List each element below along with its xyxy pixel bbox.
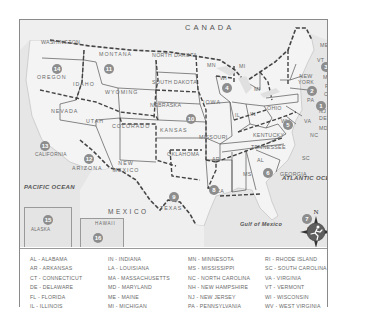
gulf-of-mexico-label: Gulf of Mexico [240, 221, 270, 228]
legend-item: PA - PENNSYLVANIA [188, 302, 250, 311]
state-label-nc: NC [310, 133, 318, 138]
region-badge-3: 3 [321, 62, 327, 72]
state-label-washington: WASHINGTON [41, 40, 80, 45]
state-label-utah: UTAH [86, 119, 104, 124]
state-label-south-dakota: SOUTH DAKOTA [152, 79, 182, 86]
legend-item: VT - VERMONT [265, 283, 327, 292]
region-badge-15: 15 [43, 215, 53, 225]
region-badge-10: 10 [186, 114, 196, 124]
mexico-label: MEXICO [108, 209, 149, 216]
state-label-mi-upper: MI [239, 64, 245, 69]
legend-item: MA - MASSACHUSETTS [108, 274, 170, 283]
state-label-mn: MN [207, 63, 216, 68]
legend-item: RI - RHODE ISLAND [265, 255, 327, 264]
legend-item: WI - WISCONSIN [265, 293, 327, 302]
legend-item: NC - NORTH CAROLINA [188, 274, 250, 283]
state-label-me: ME [320, 43, 327, 48]
state-label-ar: AR [212, 157, 220, 162]
hawaii-inset: HAWAII 16 [80, 218, 124, 247]
state-label-il: IL [235, 113, 240, 118]
state-label-georgia: GEORGIA [280, 172, 307, 177]
map-frame: CANADA MEXICO PACIFIC OCEAN ATLANTIC OCE… [19, 19, 328, 307]
state-label-md: MD [319, 126, 327, 131]
legend-item: CT - CONNECTICUT [30, 274, 82, 283]
state-label-alaska: ALASKA [31, 228, 50, 233]
legend-item: MS - MISSISSIPPI [188, 264, 250, 273]
state-label-wi: WI [220, 76, 227, 81]
svg-text:N: N [313, 208, 318, 216]
region-badge-9: 9 [169, 192, 179, 202]
legend-item: MD - MARYLAND [108, 283, 170, 292]
state-label-arizona: ARIZONA [72, 166, 103, 171]
compass-rose: N [296, 206, 327, 247]
legend-column-1: AL - ALABAMA AR - ARKANSAS CT - CONNECTI… [30, 255, 82, 311]
state-label-de: DE [319, 116, 327, 121]
state-label-new-york: NEW YORK [296, 73, 316, 86]
compass-icon: N [296, 206, 327, 247]
state-label-texas: TEXAS [160, 206, 182, 211]
state-label-ri: RI [325, 84, 327, 89]
state-label-pa: PA [307, 98, 314, 103]
region-badge-1: 1 [316, 101, 326, 111]
state-abbreviation-legend: AL - ALABAMA AR - ARKANSAS CT - CONNECTI… [20, 248, 327, 307]
legend-item: NJ - NEW JERSEY [188, 293, 250, 302]
legend-column-3: MN - MINNESOTA MS - MISSISSIPPI NC - NOR… [188, 255, 250, 311]
legend-item: AR - ARKANSAS [30, 264, 82, 273]
state-label-ma: MA [323, 75, 327, 80]
legend-item: MN - MINNESOTA [188, 255, 250, 264]
alaska-inset: ALASKA 15 [24, 207, 72, 247]
legend-item: AL - ALABAMA [30, 255, 82, 264]
region-badge-14: 14 [52, 64, 62, 74]
state-label-kentucky: KENTUCKY [253, 133, 284, 138]
state-label-sc: SC [302, 156, 310, 161]
state-label-oregon: OREGON [37, 75, 67, 80]
region-badge-6: 6 [263, 168, 273, 178]
state-label-wyoming: WYOMING [105, 90, 138, 95]
region-badge-5: 5 [283, 120, 293, 130]
state-label-mi: MI [254, 87, 260, 92]
legend-item: ME - MAINE [108, 293, 170, 302]
legend-item: IL - ILLINOIS [30, 302, 82, 311]
state-label-iowa: IOWA [203, 100, 221, 105]
region-badge-16: 16 [93, 233, 103, 243]
state-label-in: IN [250, 112, 256, 117]
state-label-ct: CT [324, 92, 327, 97]
state-label-montana: MONTANA [99, 52, 132, 57]
region-badge-12: 12 [84, 154, 94, 164]
legend-item: FL - FLORIDA [30, 293, 82, 302]
pacific-ocean-label: PACIFIC OCEAN [24, 184, 58, 191]
state-label-ms: MS [243, 172, 252, 177]
state-label-colorado: COLORADO [112, 124, 150, 129]
legend-item: SC - SOUTH CAROLINA [265, 264, 327, 273]
legend-item: LA - LOUISIANA [108, 264, 170, 273]
state-label-nevada: NEVADA [51, 109, 78, 114]
state-label-california: CALIFORNIA [35, 153, 67, 158]
legend-item: IN - INDIANA [108, 255, 170, 264]
state-label-tennessee: TENNESSEE [251, 145, 286, 150]
legend-item: VA - VIRGINIA [265, 274, 327, 283]
region-badge-4: 4 [222, 83, 232, 93]
us-map: CANADA MEXICO PACIFIC OCEAN ATLANTIC OCE… [20, 20, 327, 247]
state-label-al: AL [257, 158, 264, 163]
legend-column-4: RI - RHODE ISLAND SC - SOUTH CAROLINA VA… [265, 255, 327, 311]
region-badge-11: 11 [104, 64, 114, 74]
legend-item: DE - DELAWARE [30, 283, 82, 292]
state-label-nebraska: NEBRASKA [150, 103, 181, 108]
state-label-idaho: IDAHO [73, 82, 95, 87]
legend-item: WV - WEST VIRGINIA [265, 302, 327, 311]
region-badge-8: 8 [209, 185, 219, 195]
state-label-oklahoma: OKLAHOMA [167, 152, 199, 157]
region-badge-2: 2 [307, 86, 317, 96]
state-label-ohio: OHIO [267, 106, 282, 111]
legend-item: MI - MICHIGAN [108, 302, 170, 311]
legend-column-2: IN - INDIANA LA - LOUISIANA MA - MASSACH… [108, 255, 170, 311]
region-badge-13: 13 [40, 141, 50, 151]
state-label-missouri: MISSOURI [199, 135, 228, 140]
state-label-hawaii: HAWAII [95, 222, 115, 227]
state-label-kansas: KANSAS [160, 128, 188, 133]
state-label-north-dakota: NORTH DAKOTA [152, 52, 182, 59]
state-label-new-mexico: NEW MEXICO [112, 160, 140, 174]
canada-label: CANADA [185, 24, 234, 32]
legend-item: NH - NEW HAMPSHIRE [188, 283, 250, 292]
state-label-va: VA [304, 119, 311, 124]
